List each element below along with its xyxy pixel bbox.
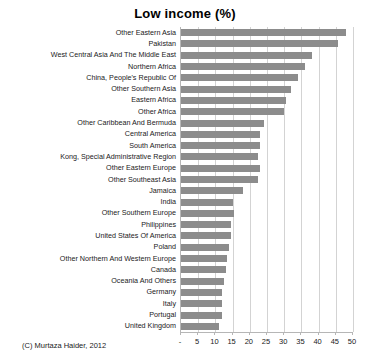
x-tick-label: 20 — [245, 337, 253, 346]
category-label: Jamaica — [149, 187, 176, 195]
category-label: Kong, Special Administrative Region — [60, 153, 176, 161]
category-label: Northern Africa — [128, 63, 176, 71]
bar — [181, 244, 229, 251]
category-label: Central America — [125, 130, 176, 138]
x-tick-mark — [180, 332, 181, 335]
category-label: China, People's Republic Of — [86, 74, 176, 82]
category-axis: Other Eastern AsiaPakistanWest Central A… — [0, 27, 179, 332]
x-tick-mark — [197, 332, 198, 335]
bar — [181, 165, 260, 172]
category-label: Oceania And Others — [111, 277, 176, 285]
bar — [181, 289, 222, 296]
x-tick-label: 25 — [262, 337, 270, 346]
x-tick-label: 30 — [279, 337, 287, 346]
category-label: West Central Asia And The Middle East — [51, 51, 176, 59]
bar — [181, 29, 346, 36]
gridline — [353, 27, 354, 332]
bar — [181, 199, 233, 206]
bar — [181, 255, 227, 262]
category-label: Poland — [154, 243, 176, 251]
x-tick-mark — [214, 332, 215, 335]
category-label: Italy — [163, 300, 176, 308]
bar — [181, 40, 338, 47]
x-tick-label: 15 — [227, 337, 235, 346]
category-label: United Kingdom — [125, 322, 176, 330]
category-label: Other Eastern Asia — [116, 29, 176, 37]
bar — [181, 187, 243, 194]
bar — [181, 176, 258, 183]
x-tick-label: 35 — [296, 337, 304, 346]
bar — [181, 278, 224, 285]
category-label: Portugal — [149, 311, 176, 319]
x-tick-mark — [300, 332, 301, 335]
bar — [181, 232, 231, 239]
x-tick-mark — [232, 332, 233, 335]
x-tick-label: 40 — [313, 337, 321, 346]
gridline — [284, 27, 285, 332]
credit-text: (C) Murtaza Haider, 2012 — [22, 341, 106, 350]
bar — [181, 153, 258, 160]
bar — [181, 142, 260, 149]
x-tick-label: 5 — [195, 337, 199, 346]
category-label: Philippines — [141, 221, 176, 229]
category-label: Other Southern Europe — [102, 209, 176, 217]
category-label: Eastern Africa — [131, 96, 176, 104]
bar — [181, 266, 226, 273]
x-tick-label: - — [179, 337, 182, 346]
bar — [181, 120, 264, 127]
plot-wrapper: Other Eastern AsiaPakistanWest Central A… — [0, 27, 370, 332]
category-label: Other Southeast Asia — [108, 176, 176, 184]
bar — [181, 63, 305, 70]
plot-area — [180, 27, 353, 332]
category-label: India — [160, 198, 176, 206]
x-tick-mark — [318, 332, 319, 335]
category-label: Other Caribbean And Bermuda — [77, 119, 176, 127]
bar — [181, 131, 260, 138]
x-tick-label: 10 — [210, 337, 218, 346]
x-tick-mark — [249, 332, 250, 335]
category-label: Pakistan — [148, 40, 176, 48]
gridline — [301, 27, 302, 332]
category-label: Germany — [146, 288, 176, 296]
bar — [181, 86, 291, 93]
x-tick-label: 50 — [348, 337, 356, 346]
bar — [181, 300, 222, 307]
x-tick-label: 45 — [331, 337, 339, 346]
category-label: South America — [129, 142, 176, 150]
x-tick-mark — [266, 332, 267, 335]
category-label: United States Of America — [95, 232, 176, 240]
bar — [181, 323, 219, 330]
x-tick-mark — [335, 332, 336, 335]
bar — [181, 312, 222, 319]
x-tick-mark — [352, 332, 353, 335]
gridline — [267, 27, 268, 332]
bar — [181, 74, 298, 81]
category-label: Canada — [151, 266, 176, 274]
x-tick-mark — [283, 332, 284, 335]
gridline — [319, 27, 320, 332]
bar — [181, 52, 312, 59]
category-label: Other Africa — [138, 108, 176, 116]
gridline — [336, 27, 337, 332]
bar — [181, 97, 286, 104]
bar — [181, 210, 234, 217]
chart-container: Low income (%) Other Eastern AsiaPakista… — [0, 0, 370, 363]
chart-title: Low income (%) — [0, 0, 370, 24]
bar — [181, 108, 284, 115]
category-label: Other Southern Asia — [111, 85, 176, 93]
category-label: Other Northern And Western Europe — [60, 255, 176, 263]
bar — [181, 221, 231, 228]
category-label: Other Eastern Europe — [106, 164, 176, 172]
